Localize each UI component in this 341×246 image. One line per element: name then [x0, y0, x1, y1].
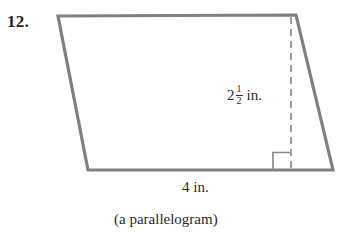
figure-container: 12. 2 1 2 in. 4 in. (a parallelogram): [0, 0, 341, 246]
fraction-numerator: 1: [236, 84, 243, 95]
base-measurement-label: 4 in.: [182, 180, 209, 195]
fraction: 1 2: [236, 84, 243, 106]
mixed-number: 2 1 2: [227, 84, 243, 106]
fraction-denominator: 2: [236, 96, 243, 107]
height-unit-label: in.: [247, 88, 262, 103]
height-measurement-label: 2 1 2 in.: [227, 84, 262, 106]
parallelogram-diagram: [0, 0, 341, 246]
fraction-whole-part: 2: [227, 88, 235, 103]
figure-caption: (a parallelogram): [114, 212, 218, 227]
